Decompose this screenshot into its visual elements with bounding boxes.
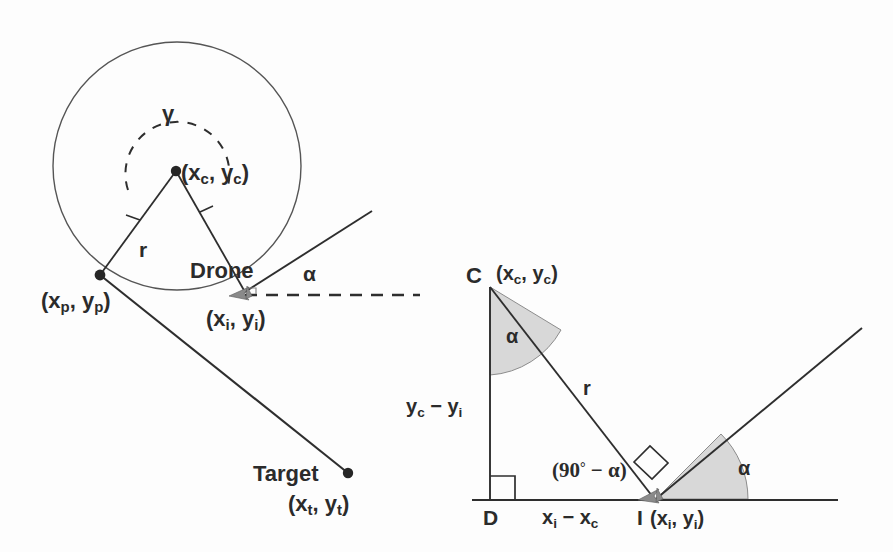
r-intercept-coord-close: ) <box>698 507 705 529</box>
pivot-coord-sub-p2: p <box>94 298 103 315</box>
intercept-coord-label-right: (xi, yi) <box>650 507 704 532</box>
target-coord-close: ) <box>342 491 349 516</box>
pivot-coord-close: ) <box>103 288 110 313</box>
pivot-coord-label: (xp, yp) <box>41 288 111 315</box>
angle-expr-open: (90 <box>552 458 580 482</box>
r-intercept-coord-mid: , y <box>672 507 695 529</box>
intercept-coord-label-left: (xi, yi) <box>206 306 266 333</box>
pivot-coord-sub-p1: p <box>61 298 70 315</box>
horizontal-side-label: xi − xc <box>542 506 599 531</box>
radius-label-left: r <box>139 238 147 261</box>
figure-root: γ (xc, yc) r Drone α (xp, yp) (xi, yi) T… <box>0 0 893 552</box>
alpha-label-bottom: α <box>738 457 751 479</box>
vertical-side-sub-i: i <box>459 405 463 420</box>
right-angle-marker-i <box>634 446 668 479</box>
intercept-coord-open: (x <box>206 306 226 331</box>
heading-ray-line <box>656 328 862 499</box>
vertical-side-mid: − y <box>425 395 460 417</box>
angle-expression-label: (90° − α) <box>552 458 627 482</box>
vertex-c-label: C <box>466 263 482 288</box>
alpha-label-left: α <box>303 262 316 285</box>
pivot-coord-mid: , y <box>70 288 95 313</box>
svg-text:(90° − α): (90° − α) <box>552 458 627 482</box>
pivot-dot <box>95 270 106 281</box>
center-coord-label: (xc, yc) <box>181 160 249 187</box>
center-coord-mid: , y <box>209 160 234 185</box>
r-center-coord-close: ) <box>551 262 558 284</box>
r-intercept-coord-open: (x <box>650 507 668 529</box>
svg-text:(xc, yc): (xc, yc) <box>181 160 249 187</box>
alpha-wedge-bottom <box>656 434 748 499</box>
pivot-target-line <box>100 275 348 473</box>
radius-tick-right <box>200 206 213 212</box>
svg-text:(xt, yt): (xt, yt) <box>288 491 349 518</box>
vertex-d-label: D <box>483 506 498 529</box>
r-center-coord-open: (x <box>496 262 514 284</box>
svg-text:xi − xc: xi − xc <box>542 506 599 531</box>
center-coord-close: ) <box>242 160 249 185</box>
center-dot <box>171 166 181 176</box>
alpha-label-top: α <box>506 325 519 347</box>
vertex-i-label: I <box>637 506 643 529</box>
pivot-coord-open: (x <box>41 288 61 313</box>
intercept-coord-mid: , y <box>230 306 255 331</box>
horizontal-side-x: x <box>542 506 553 528</box>
right-diagram-group <box>472 287 862 503</box>
center-coord-open: (x <box>181 160 201 185</box>
center-coord-sub-c2: c <box>233 170 241 187</box>
diagram-canvas: γ (xc, yc) r Drone α (xp, yp) (xi, yi) T… <box>0 0 893 552</box>
radius-line-pivot <box>100 171 176 275</box>
svg-text:yc − yi: yc − yi <box>406 395 462 420</box>
target-coord-label: (xt, yt) <box>288 491 349 518</box>
svg-text:(xi, yi): (xi, yi) <box>650 507 704 532</box>
horizontal-side-mid: − x <box>557 506 591 528</box>
target-coord-mid: , y <box>313 491 338 516</box>
svg-text:(xc, yc): (xc, yc) <box>496 262 558 287</box>
radius-label-right: r <box>583 377 591 399</box>
target-label: Target <box>253 461 319 486</box>
intercept-coord-close: ) <box>258 306 265 331</box>
drone-label: Drone <box>190 258 254 283</box>
r-center-coord-mid: , y <box>521 262 544 284</box>
vertical-side-label: yc − yi <box>406 395 462 420</box>
horizontal-side-sub-c: c <box>591 516 599 531</box>
target-dot <box>343 468 353 478</box>
right-center-coord-label: (xc, yc) <box>496 262 558 287</box>
center-coord-sub-c1: c <box>201 170 209 187</box>
radius-tick-left <box>126 215 140 220</box>
svg-text:(xp, yp): (xp, yp) <box>41 288 111 315</box>
right-angle-marker-d <box>490 476 515 500</box>
target-coord-open: (x <box>288 491 308 516</box>
angle-expr-rest: − α) <box>586 458 627 482</box>
gamma-label: γ <box>162 101 175 126</box>
svg-text:(xi, yi): (xi, yi) <box>206 306 266 333</box>
